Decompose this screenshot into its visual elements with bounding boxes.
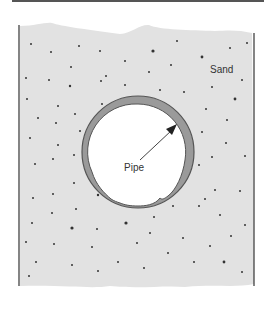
pipe-label: Pipe: [124, 162, 144, 173]
buried-pipe-diagram: [0, 0, 271, 309]
sand-label: Sand: [210, 64, 233, 75]
pipe-interior: [88, 104, 186, 206]
